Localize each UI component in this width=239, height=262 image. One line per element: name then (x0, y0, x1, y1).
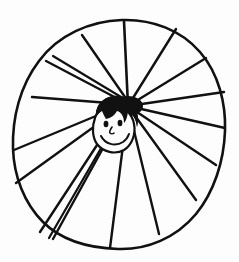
right-eye (118, 120, 123, 126)
drawing-canvas (0, 0, 239, 262)
left-eye (104, 121, 109, 127)
face-group (93, 96, 138, 153)
sketch-svg (0, 0, 239, 262)
